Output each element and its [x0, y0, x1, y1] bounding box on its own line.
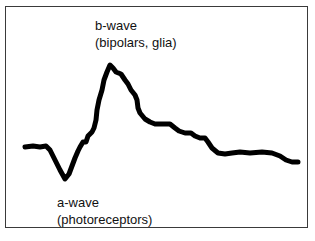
- a-wave-label: a-wave (photoreceptors): [57, 194, 152, 228]
- b-wave-subtitle: (bipolars, glia): [95, 34, 177, 51]
- a-wave-title: a-wave: [57, 194, 152, 211]
- a-wave-subtitle: (photoreceptors): [57, 211, 152, 228]
- b-wave-label: b-wave (bipolars, glia): [95, 17, 177, 51]
- b-wave-title: b-wave: [95, 17, 177, 34]
